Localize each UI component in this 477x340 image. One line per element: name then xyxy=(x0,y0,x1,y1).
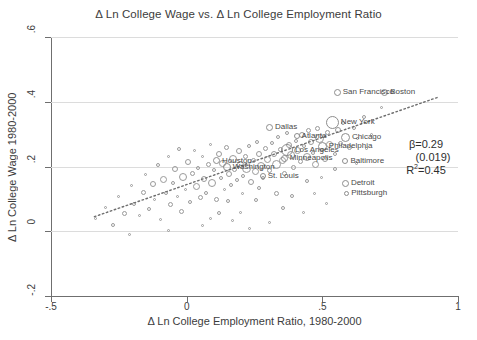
scatter-point xyxy=(209,217,212,220)
scatter-point xyxy=(226,199,230,203)
scatter-point xyxy=(141,190,146,195)
scatter-point xyxy=(239,211,242,214)
scatter-point xyxy=(176,195,179,198)
y-axis-title: Δ Ln College Wage 1980-2000 xyxy=(6,42,20,292)
scatter-point xyxy=(177,147,181,151)
scatter-point xyxy=(150,181,156,187)
city-label-washington: Washington xyxy=(233,162,275,171)
scatter-point xyxy=(201,155,204,158)
scatter-point xyxy=(201,176,207,182)
y-tick-label: .6 xyxy=(26,25,37,33)
scatter-point xyxy=(285,131,289,135)
city-label-pittsburgh: Pittsburgh xyxy=(351,188,387,197)
scatter-point xyxy=(223,188,226,191)
scatter-point xyxy=(294,133,300,139)
scatter-point xyxy=(117,195,120,198)
scatter-point xyxy=(94,217,97,220)
scatter-point xyxy=(179,173,187,181)
stat-r-squared: R2=0.45 xyxy=(381,163,471,176)
scatter-point xyxy=(281,206,285,210)
scatter-point xyxy=(208,179,216,187)
chart-figure: Δ Ln College Wage vs. Δ Ln College Emplo… xyxy=(0,0,477,340)
scatter-point xyxy=(257,186,261,190)
scatter-point xyxy=(344,191,349,196)
scatter-point xyxy=(201,224,204,227)
city-label-atlanta: Atlanta xyxy=(302,131,327,140)
y-tick-label: .4 xyxy=(26,90,37,98)
scatter-point xyxy=(342,158,348,164)
scatter-point xyxy=(320,176,323,179)
y-tick xyxy=(45,231,51,232)
scatter-point xyxy=(352,126,356,130)
x-tick-label: 0 xyxy=(167,301,207,312)
scatter-point xyxy=(333,167,337,171)
scatter-point xyxy=(380,106,383,109)
scatter-point xyxy=(325,202,328,205)
city-label-dallas: Dallas xyxy=(275,122,297,131)
scatter-point xyxy=(271,151,277,157)
scatter-point xyxy=(229,183,233,187)
scatter-point xyxy=(179,209,184,214)
scatter-point xyxy=(302,211,305,214)
scatter-point xyxy=(334,89,341,96)
scatter-point xyxy=(198,195,203,200)
scatter-point xyxy=(196,166,200,170)
scatter-point xyxy=(193,183,200,190)
city-label-st-louis: St. Louis xyxy=(268,171,299,180)
scatter-point xyxy=(241,192,244,195)
scatter-point xyxy=(342,180,349,187)
stat-beta: β=0.29 xyxy=(381,138,471,151)
scatter-point xyxy=(276,135,280,139)
gridline-y xyxy=(51,102,458,103)
scatter-point xyxy=(216,151,222,157)
y-tick xyxy=(45,37,51,38)
scatter-point xyxy=(172,166,178,172)
scatter-point xyxy=(147,207,151,211)
scatter-point xyxy=(294,139,298,143)
scatter-point xyxy=(236,148,242,154)
scatter-point xyxy=(231,219,234,222)
scatter-point xyxy=(326,116,339,129)
city-label-new-york: New York xyxy=(341,117,375,126)
city-label-boston: Boston xyxy=(390,87,415,96)
scatter-point xyxy=(132,202,136,206)
stat-standard-error: (0.019) xyxy=(381,151,471,164)
scatter-point xyxy=(247,144,251,148)
scatter-point xyxy=(248,227,251,230)
scatter-point xyxy=(260,173,266,179)
scatter-point xyxy=(248,179,254,185)
scatter-point xyxy=(291,165,296,170)
scatter-point xyxy=(235,178,239,182)
scatter-point xyxy=(270,141,274,145)
scatter-point xyxy=(185,159,191,165)
scatter-point xyxy=(144,173,147,176)
r2-prefix: R xyxy=(406,164,414,176)
x-axis-line xyxy=(51,296,458,297)
scatter-point xyxy=(219,176,223,180)
y-tick xyxy=(45,167,51,168)
scatter-point xyxy=(159,218,162,221)
scatter-point xyxy=(171,181,175,185)
scatter-point xyxy=(164,191,168,195)
scatter-point xyxy=(256,151,262,157)
scatter-point xyxy=(217,211,221,215)
scatter-point xyxy=(104,206,107,209)
scatter-point xyxy=(188,200,192,204)
x-tick-label: 1 xyxy=(438,301,477,312)
scatter-point xyxy=(281,155,288,162)
x-axis-title: Δ Ln College Employment Ratio, 1980-2000 xyxy=(51,315,458,327)
scatter-point xyxy=(212,168,216,172)
scatter-point xyxy=(241,174,245,178)
scatter-point xyxy=(224,145,229,150)
city-label-san-francisco: San Francisco xyxy=(343,87,394,96)
scatter-point xyxy=(305,179,309,183)
scatter-point xyxy=(190,171,195,176)
scatter-point xyxy=(160,176,167,183)
scatter-point xyxy=(122,211,127,216)
scatter-point xyxy=(214,197,219,202)
scatter-point xyxy=(138,214,141,217)
scatter-point xyxy=(111,223,115,227)
scatter-point xyxy=(167,155,170,158)
gridline-y xyxy=(51,37,458,38)
scatter-point xyxy=(128,233,131,236)
